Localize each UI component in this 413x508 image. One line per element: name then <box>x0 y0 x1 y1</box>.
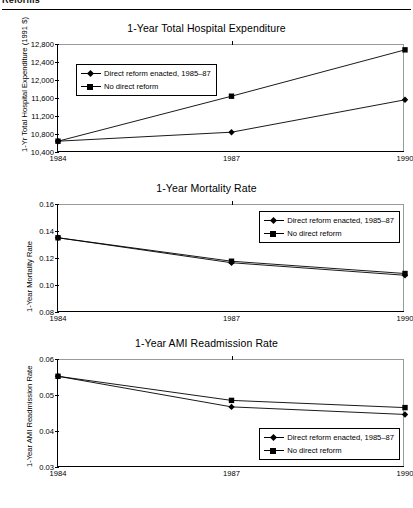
x-axis-tick-label: 1990 <box>397 469 413 478</box>
series-line <box>58 238 405 274</box>
plot-area: 0.080.100.120.140.16198419871990Direct r… <box>57 204 404 312</box>
legend-item: Direct reform enacted, 1985–87 <box>264 215 394 226</box>
y-axis-tick-label: 11,200 <box>31 112 54 121</box>
running-header: Reforms <box>0 0 413 14</box>
diamond-marker-icon <box>87 70 94 77</box>
y-axis-tick-label: 0.05 <box>39 391 54 400</box>
legend-label: Direct reform enacted, 1985–87 <box>287 216 394 225</box>
y-axis-tick-mark <box>55 152 59 153</box>
legend-key <box>264 229 284 238</box>
diamond-marker-icon <box>270 217 277 224</box>
x-axis-tick-label: 1990 <box>397 154 413 163</box>
legend-key <box>264 216 284 225</box>
y-axis-label: 1-Year AMI Readmission Rate <box>25 366 34 467</box>
data-point-marker <box>402 271 407 276</box>
data-point-marker <box>55 374 60 379</box>
data-point-marker <box>55 235 60 240</box>
data-point-marker <box>228 129 234 135</box>
square-marker-icon <box>270 231 276 237</box>
legend-item: Direct reform enacted, 1985–87 <box>264 432 394 443</box>
chart-legend: Direct reform enacted, 1985–87No direct … <box>259 211 400 243</box>
y-axis-tick-label: 0.06 <box>39 355 54 364</box>
x-axis-tick-label: 1984 <box>50 154 67 163</box>
legend-key <box>264 446 284 455</box>
x-axis-tick-label: 1990 <box>397 314 413 323</box>
y-axis-tick-label: 12,400 <box>31 58 54 67</box>
data-point-marker <box>402 405 407 410</box>
legend-item: No direct reform <box>264 445 394 456</box>
data-point-marker <box>402 47 407 52</box>
data-point-marker <box>228 404 234 410</box>
legend-label: No direct reform <box>104 82 158 91</box>
legend-label: No direct reform <box>287 446 341 455</box>
y-axis-tick-label: 0.16 <box>39 200 54 209</box>
y-axis-label: 1-Year Mortality Rate <box>25 241 34 312</box>
plot-area: 10,40010,80011,20011,60012,00012,40012,8… <box>57 44 404 152</box>
y-axis-tick-label: 0.14 <box>39 227 54 236</box>
y-axis-tick-label: 12,000 <box>31 76 54 85</box>
chart-legend: Direct reform enacted, 1985–87No direct … <box>76 64 217 96</box>
x-axis-tick-label: 1987 <box>223 469 240 478</box>
chart-title: 1-Year Mortality Rate <box>0 182 413 194</box>
y-axis-tick-label: 0.12 <box>39 254 54 263</box>
x-axis-tick-label: 1987 <box>223 154 240 163</box>
y-axis-tick-label: 12,800 <box>31 40 54 49</box>
x-axis-tick-label: 1987 <box>223 314 240 323</box>
y-axis-tick-label: 10,800 <box>31 130 54 139</box>
legend-label: Direct reform enacted, 1985–87 <box>287 433 394 442</box>
data-point-marker <box>402 411 408 417</box>
legend-key <box>264 433 284 442</box>
data-point-marker <box>229 94 234 99</box>
y-axis-tick-mark <box>55 467 59 468</box>
legend-label: No direct reform <box>287 229 341 238</box>
legend-label: Direct reform enacted, 1985–87 <box>104 69 211 78</box>
y-axis-tick-mark <box>55 312 59 313</box>
chart-mortality-rate: 1-Year Mortality Rate 0.080.100.120.140.… <box>0 182 413 337</box>
chart-title: 1-Year AMI Readmission Rate <box>0 337 413 349</box>
series-layer <box>58 44 405 152</box>
x-axis-tick-label: 1984 <box>50 314 67 323</box>
diamond-marker-icon <box>270 434 277 441</box>
header-divider <box>2 9 411 10</box>
data-point-marker <box>229 259 234 264</box>
data-point-marker <box>55 139 60 144</box>
square-marker-icon <box>270 448 276 454</box>
legend-item: Direct reform enacted, 1985–87 <box>81 68 211 79</box>
data-point-marker <box>402 97 408 103</box>
legend-key <box>81 69 101 78</box>
figure-page: Reforms 1-Year Total Hospital Expenditur… <box>0 0 413 508</box>
chart-legend: Direct reform enacted, 1985–87No direct … <box>259 428 400 460</box>
legend-item: No direct reform <box>264 228 394 239</box>
chart-title: 1-Year Total Hospital Expenditure <box>0 22 413 34</box>
legend-key <box>81 82 101 91</box>
chart-hospital-expenditure: 1-Year Total Hospital Expenditure 10,400… <box>0 22 413 182</box>
header-title: Reforms <box>2 0 40 5</box>
square-marker-icon <box>87 84 93 90</box>
data-point-marker <box>229 398 234 403</box>
plot-area: 0.030.040.050.06198419871990Direct refor… <box>57 359 404 467</box>
y-axis-label: 1-Yr Total Hospital Expenditure (1991 $) <box>20 17 29 152</box>
chart-ami-readmission-rate: 1-Year AMI Readmission Rate 0.030.040.05… <box>0 337 413 508</box>
y-axis-tick-label: 11,600 <box>31 94 54 103</box>
y-axis-tick-label: 0.04 <box>39 427 54 436</box>
legend-item: No direct reform <box>81 81 211 92</box>
y-axis-tick-label: 0.10 <box>39 281 54 290</box>
x-axis-tick-label: 1984 <box>50 469 67 478</box>
